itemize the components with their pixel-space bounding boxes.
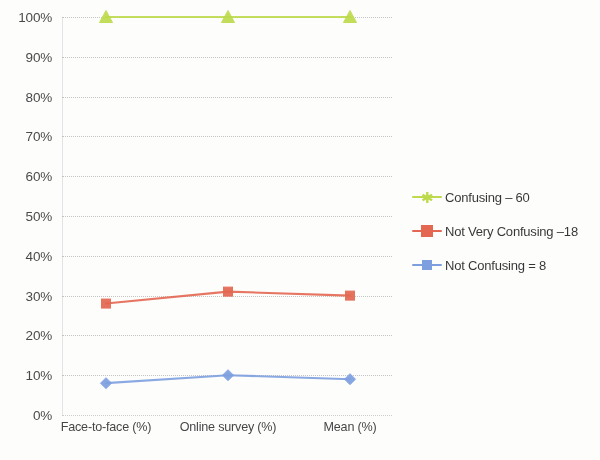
x-axis: Face-to-face (%)Online survey (%)Mean (%… — [62, 420, 392, 446]
series-confusing — [100, 11, 357, 23]
data-point-marker — [345, 374, 356, 385]
data-point-marker — [102, 299, 111, 308]
legend-item[interactable]: Not Very Confusing –18 — [412, 214, 600, 248]
y-tick-label: 10% — [26, 368, 52, 383]
y-tick-label: 20% — [26, 328, 52, 343]
data-point-marker — [223, 370, 234, 381]
data-point-marker — [224, 287, 233, 296]
line-chart-figure: 0%10%20%30%40%50%60%70%80%90%100% Face-t… — [0, 0, 600, 460]
y-tick-label: 80% — [26, 89, 52, 104]
y-tick-label: 0% — [33, 408, 52, 423]
y-tick-label: 100% — [18, 10, 52, 25]
data-point-marker — [101, 378, 112, 389]
diamond-icon — [422, 260, 432, 270]
data-point-marker — [346, 291, 355, 300]
legend-label: Not Very Confusing –18 — [445, 224, 578, 239]
y-tick-label: 90% — [26, 49, 52, 64]
y-axis: 0%10%20%30%40%50%60%70%80%90%100% — [0, 17, 58, 415]
legend-item[interactable]: ✱Confusing – 60 — [412, 180, 600, 214]
plot-area — [62, 17, 392, 415]
y-tick-label: 50% — [26, 209, 52, 224]
x-tick-label: Face-to-face (%) — [61, 420, 152, 434]
series-not-confusing — [101, 370, 356, 389]
legend-swatch — [412, 224, 442, 238]
gridline-0 — [62, 415, 392, 417]
y-tick-label: 60% — [26, 169, 52, 184]
y-tick-label: 40% — [26, 248, 52, 263]
legend-label: Confusing – 60 — [445, 190, 530, 205]
chart-legend: ✱Confusing – 60Not Very Confusing –18Not… — [412, 180, 600, 282]
x-tick-label: Online survey (%) — [180, 420, 277, 434]
legend-swatch — [412, 258, 442, 272]
legend-label: Not Confusing = 8 — [445, 258, 546, 273]
star-icon: ✱ — [421, 190, 434, 205]
legend-item[interactable]: Not Confusing = 8 — [412, 248, 600, 282]
series-layer — [62, 17, 392, 415]
y-tick-label: 70% — [26, 129, 52, 144]
series-not-very-confusing — [102, 287, 355, 308]
square-icon — [421, 225, 433, 237]
x-tick-label: Mean (%) — [324, 420, 377, 434]
y-tick-label: 30% — [26, 288, 52, 303]
legend-swatch: ✱ — [412, 190, 442, 204]
